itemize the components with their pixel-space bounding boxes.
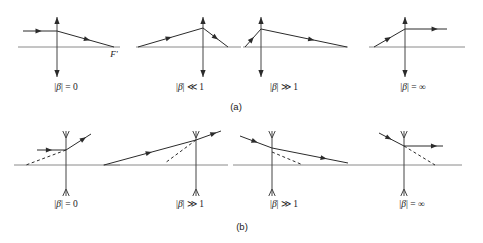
panel-b3-condition-label-beta: β — [271, 199, 277, 209]
panel-a2-incoming-ray-arrowhead — [165, 36, 172, 41]
panel-a2-outgoing-ray-arrowhead — [212, 34, 218, 40]
ray-diagram-canvas: F'|β| = 0|β| ≪ 1|β| ≫ 1|β| = ∞(a)|β| = 0… — [0, 0, 483, 243]
ray-diagram-figure: F'|β| = 0|β| ≪ 1|β| ≫ 1|β| = ∞(a)|β| = 0… — [0, 0, 483, 243]
panel-a1-incoming-ray-arrowhead — [36, 29, 42, 34]
panel-a3-lens-arrow-bottom — [258, 70, 263, 77]
panel-b4-outgoing-ray-arrowhead — [431, 144, 437, 149]
panel-a1: F'|β| = 0 — [18, 17, 120, 92]
panel-a3-outgoing-ray-arrowhead — [308, 36, 315, 41]
panel-a2: |β| ≪ 1 — [136, 17, 241, 92]
panel-b2-incoming-ray-arrowhead — [145, 151, 152, 156]
panel-a1-focal-point-label: F' — [109, 49, 118, 59]
panel-b1-condition-label-beta: β — [55, 199, 61, 209]
panel-a3-outgoing-ray-line — [261, 29, 347, 47]
panel-b2-outgoing-ray-line — [196, 131, 221, 140]
row-b-caption: (b) — [236, 221, 248, 232]
panel-a4-incoming-ray-arrowhead — [384, 37, 391, 42]
panel-a2-condition-label-beta: β — [177, 82, 183, 92]
panel-b4: |β| = ∞ — [350, 131, 462, 209]
panel-a2-lens-arrow-bottom — [200, 70, 205, 77]
panel-b2-virtual-ray — [165, 140, 196, 163]
panel-b2-condition-label: |β| ≫ 1 — [176, 199, 204, 209]
panel-a1-condition-label-beta: β — [55, 82, 61, 92]
panel-b1: |β| = 0 — [14, 131, 120, 209]
panel-a1-outgoing-ray-arrowhead — [83, 36, 90, 41]
panel-b3: |β| ≫ 1 — [233, 131, 350, 209]
panel-b4-condition-label: |β| = ∞ — [399, 199, 425, 209]
panel-b3-virtual-ray — [272, 152, 303, 165]
panel-b4-incoming-ray-arrowhead — [385, 134, 392, 139]
row-b: |β| = 0|β| ≫ 1|β| ≫ 1|β| = ∞(b) — [14, 131, 462, 232]
panel-a1-lens-arrow-bottom — [54, 70, 59, 77]
panel-b4-virtual-ray — [404, 146, 435, 165]
panel-a3: |β| ≫ 1 — [243, 17, 348, 92]
panel-b3-outgoing-ray-arrowhead — [320, 155, 327, 160]
panel-b3-condition-label: |β| ≫ 1 — [270, 199, 298, 209]
panel-b3-outgoing-ray-line — [272, 148, 348, 163]
panel-a4-outgoing-ray-arrowhead — [432, 27, 438, 32]
panel-a3-condition-label-beta: β — [271, 82, 277, 92]
panel-b1-outgoing-ray-line — [66, 134, 91, 150]
row-a: F'|β| = 0|β| ≪ 1|β| ≫ 1|β| = ∞(a) — [18, 17, 465, 112]
panel-a2-condition-label: |β| ≪ 1 — [176, 82, 204, 92]
panel-a4-lens-arrow-top — [402, 17, 407, 24]
panel-b1-outgoing-ray-arrowhead — [79, 137, 86, 142]
panel-a4-condition-label: |β| = ∞ — [400, 82, 426, 92]
panel-a4-condition-label-beta: β — [401, 82, 407, 92]
panel-b2-outgoing-ray-arrowhead — [210, 132, 217, 137]
panel-a4-lens-arrow-bottom — [402, 70, 407, 77]
panel-a3-lens-arrow-top — [258, 17, 263, 24]
panel-b2-condition-label-beta: β — [177, 199, 183, 209]
panel-a1-lens-arrow-top — [54, 17, 59, 24]
panel-a1-condition-label: |β| = 0 — [54, 82, 78, 92]
row-a-caption: (a) — [230, 101, 242, 112]
panel-a3-condition-label: |β| ≫ 1 — [270, 82, 298, 92]
panel-a4: |β| = ∞ — [369, 17, 465, 92]
panel-a2-lens-arrow-top — [200, 17, 205, 24]
panel-b3-incoming-ray-arrowhead — [251, 138, 258, 143]
panel-b1-condition-label: |β| = 0 — [54, 199, 78, 209]
panel-b2: |β| ≫ 1 — [103, 131, 228, 209]
panel-b4-condition-label-beta: β — [400, 199, 406, 209]
panel-b1-incoming-ray-arrowhead — [46, 148, 52, 153]
